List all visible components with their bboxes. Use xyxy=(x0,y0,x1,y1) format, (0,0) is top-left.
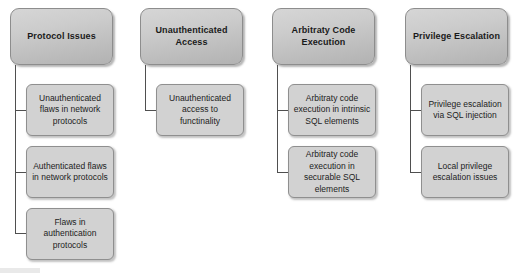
node-child-box: Unauthenticated access to functinality xyxy=(156,84,244,136)
diagram-column-privilege-escalation: Privilege Escalation Privilege escalatio… xyxy=(401,0,511,279)
node-child-label: Arbitraty code execution in intrinsic SQ… xyxy=(293,93,371,128)
diagram-column-protocol-issues: Protocol Issues Unauthenticated flaws in… xyxy=(6,0,116,279)
node-header-arbitrary-code-execution: Arbitraty Code Execution xyxy=(272,8,375,65)
node-child-label: Privilege escalation via SQL injection xyxy=(426,99,504,122)
node-header-label: Protocol Issues xyxy=(27,31,96,43)
node-header-label: Privilege Escalation xyxy=(413,31,500,43)
node-child-label: Flaws in authentication protocols xyxy=(31,217,109,252)
node-child-label: Local privilege escalation issues xyxy=(426,161,504,184)
node-child-label: Unauthenticated flaws in network protoco… xyxy=(31,93,109,128)
node-header-protocol-issues: Protocol Issues xyxy=(10,8,113,65)
node-child-box: Local privilege escalation issues xyxy=(421,146,509,198)
node-child-box: Flaws in authentication protocols xyxy=(26,208,114,260)
hierarchy-diagram: Protocol Issues Unauthenticated flaws in… xyxy=(0,0,515,279)
node-child-box: Privilege escalation via SQL injection xyxy=(421,84,509,136)
diagram-column-arbitrary-code-execution: Arbitraty Code Execution Arbitraty code … xyxy=(268,0,378,279)
node-child-label: Arbitraty code execution in securable SQ… xyxy=(293,149,371,195)
connector-trunk xyxy=(277,65,278,173)
scan-artifact xyxy=(0,268,40,273)
connector-trunk xyxy=(15,65,16,233)
node-child-box: Unauthenticated flaws in network protoco… xyxy=(26,84,114,136)
node-header-label: Arbitraty Code Execution xyxy=(278,25,369,48)
node-header-unauthenticated-access: Unauthenticated Access xyxy=(140,8,243,65)
node-child-box: Arbitraty code execution in securable SQ… xyxy=(288,146,376,198)
node-child-label: Unauthenticated access to functinality xyxy=(161,93,239,128)
node-child-box: Arbitraty code execution in intrinsic SQ… xyxy=(288,84,376,136)
node-header-label: Unauthenticated Access xyxy=(146,25,237,48)
connector-trunk xyxy=(145,65,146,111)
diagram-column-unauthenticated-access: Unauthenticated Access Unauthenticated a… xyxy=(136,0,246,279)
node-header-privilege-escalation: Privilege Escalation xyxy=(405,8,508,65)
connector-trunk xyxy=(410,65,411,173)
node-child-label: Authenticated flaws in network protocols xyxy=(31,161,109,184)
node-child-box: Authenticated flaws in network protocols xyxy=(26,146,114,198)
